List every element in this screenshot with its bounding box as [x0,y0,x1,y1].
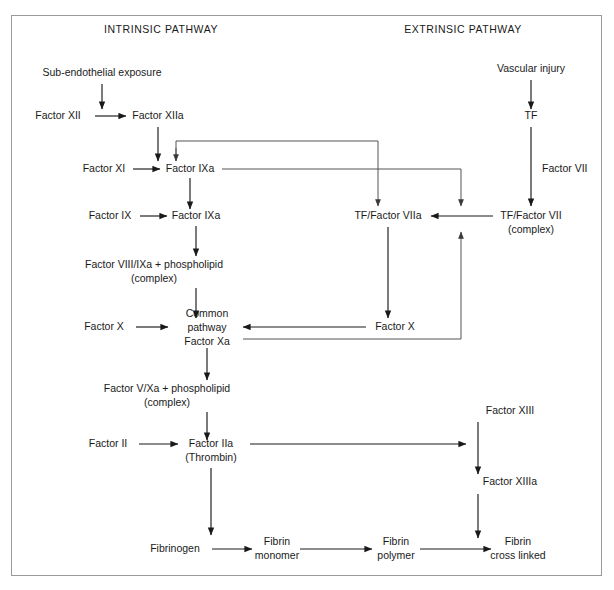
node-fibrin-polymer-line1: Fibrin [383,535,409,547]
node-factor-ii: Factor II [89,437,128,449]
node-fibrin-cross-linked-line1: Fibrin [505,535,531,547]
coagulation-cascade-figure: INTRINSIC PATHWAY EXTRINSIC PATHWAY Sub-… [0,0,614,590]
edge-layer [95,80,531,549]
node-factor-ix: Factor IX [89,209,132,221]
node-factor-viii-ixa-complex-line2: (complex) [131,272,177,284]
node-factor-xiia: Factor XIIa [132,109,184,121]
node-factor-viii-ixa-complex-line1: Factor VIII/IXa + phospholipid [85,258,223,270]
node-common-pathway-line2: pathway [187,321,227,333]
node-factor-v-xa-complex-line1: Factor V/Xa + phospholipid [104,382,231,394]
node-factor-iia-line1: Factor IIa [189,437,234,449]
node-factor-ixa-mid: Factor IXa [172,209,221,221]
node-tf: TF [525,109,538,121]
node-sub-endothelial-exposure: Sub-endothelial exposure [42,66,161,78]
node-common-pathway-line1: Common [186,307,229,319]
label-layer: INTRINSIC PATHWAY EXTRINSIC PATHWAY Sub-… [35,23,587,561]
node-factor-x-right: Factor X [375,320,415,332]
node-fibrinogen: Fibrinogen [150,542,200,554]
node-tf-factor-viia: TF/Factor VIIa [354,209,421,221]
node-fibrin-polymer-line2: polymer [377,549,415,561]
figure-border [12,16,602,576]
node-factor-xii: Factor XII [35,109,81,121]
node-tf-factor-vii-complex-line1: TF/Factor VII [500,209,561,221]
node-factor-v-xa-complex-line2: (complex) [144,396,190,408]
node-fibrin-cross-linked-line2: cross linked [490,549,546,561]
edge-xa-to-vii-complex [243,232,461,339]
node-factor-vii-edge-label: Factor VII [542,162,588,174]
node-fibrin-monomer-line1: Fibrin [264,535,290,547]
node-factor-iia-line2: (Thrombin) [185,451,236,463]
edge-ixa-to-viia-complex [222,169,461,206]
node-factor-xi: Factor XI [83,162,126,174]
node-tf-factor-vii-complex-line2: (complex) [508,223,554,235]
cascade-canvas: INTRINSIC PATHWAY EXTRINSIC PATHWAY Sub-… [0,0,614,590]
node-common-pathway-line3: Factor Xa [184,335,230,347]
node-factor-x-left: Factor X [84,320,124,332]
node-factor-xiii: Factor XIII [486,404,534,416]
node-vascular-injury: Vascular injury [497,62,566,74]
node-factor-xiiia: Factor XIIIa [483,475,537,487]
node-factor-ixa-top: Factor IXa [166,162,215,174]
node-fibrin-monomer-line2: monomer [255,549,300,561]
heading-extrinsic-pathway: EXTRINSIC PATHWAY [404,23,521,35]
heading-intrinsic-pathway: INTRINSIC PATHWAY [104,23,218,35]
